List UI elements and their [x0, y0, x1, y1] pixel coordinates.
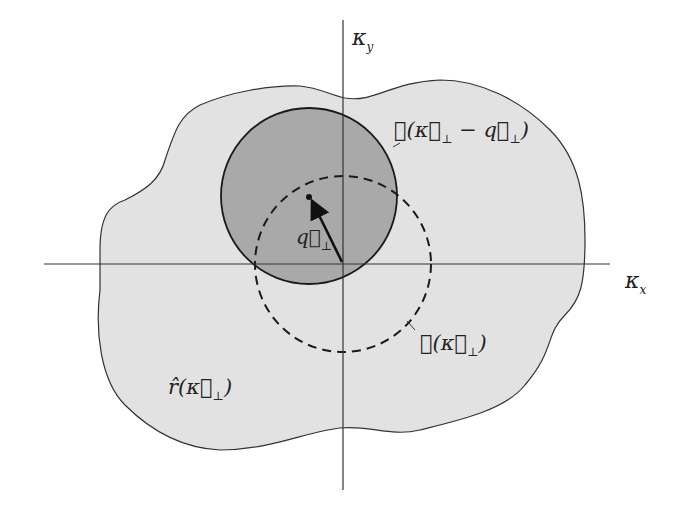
diagram-canvas: κy κx 𝓗(κ⃗⊥ − q⃗⊥) 𝓗(κ⃗⊥) r̂(κ⃗⊥) q⃗⊥: [0, 0, 677, 509]
x-axis-label: κx: [624, 268, 646, 297]
q-vector-tip-dot: [306, 194, 312, 200]
diagram-svg: κy κx 𝓗(κ⃗⊥ − q⃗⊥) 𝓗(κ⃗⊥) r̂(κ⃗⊥) q⃗⊥: [0, 0, 677, 509]
y-axis-label: κy: [351, 25, 373, 54]
shifted-aperture-label: 𝓗(κ⃗⊥ − q⃗⊥): [394, 118, 529, 146]
